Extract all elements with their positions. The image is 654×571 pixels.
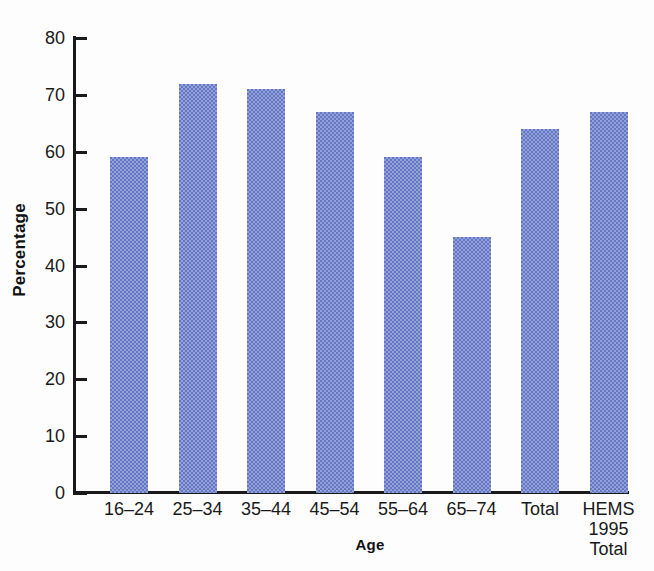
- bar: [384, 157, 422, 493]
- y-tick-mark: [76, 378, 87, 381]
- y-tick-mark: [76, 151, 87, 154]
- y-tick-mark: [76, 492, 87, 495]
- y-axis-title: Percentage: [0, 0, 40, 500]
- y-tick-label: 50: [5, 200, 65, 218]
- y-tick-label: 80: [5, 29, 65, 47]
- x-axis-title-text: Age: [355, 536, 384, 553]
- y-tick-label: 30: [5, 313, 65, 331]
- bar: [453, 237, 491, 493]
- bar: [247, 89, 285, 493]
- y-tick-label: 60: [5, 143, 65, 161]
- y-tick-mark: [76, 208, 87, 211]
- x-tick-label-line: HEMS: [564, 499, 654, 519]
- y-tick-label: 0: [5, 484, 65, 502]
- bar: [521, 129, 559, 493]
- y-tick-mark: [76, 321, 87, 324]
- y-tick-mark: [76, 265, 87, 268]
- y-tick-mark: [76, 435, 87, 438]
- bar: [590, 112, 628, 493]
- bar-chart: Percentage 01020304050607080 16–2425–343…: [0, 0, 654, 571]
- bar: [179, 84, 217, 494]
- x-axis-title: Age: [0, 536, 654, 553]
- bar: [110, 157, 148, 493]
- y-tick-label: 70: [5, 86, 65, 104]
- y-tick-mark: [76, 94, 87, 97]
- y-tick-mark: [76, 37, 87, 40]
- y-tick-label: 20: [5, 370, 65, 388]
- bar: [316, 112, 354, 493]
- y-tick-label: 10: [5, 427, 65, 445]
- y-tick-label: 40: [5, 257, 65, 275]
